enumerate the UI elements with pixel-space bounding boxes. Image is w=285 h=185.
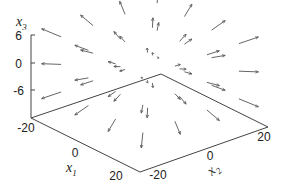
x2-tick-label: 20	[257, 130, 271, 144]
vector-arrow	[184, 4, 192, 17]
x2-tick-label: -20	[149, 168, 167, 182]
vector-arrow	[175, 121, 180, 134]
vector-arrow	[180, 34, 187, 41]
axis-labels: x3 x1 x2	[15, 14, 224, 181]
x1-axis-label: x1	[65, 160, 77, 178]
vector-arrow	[108, 91, 116, 96]
vector-field-plot: 6 0 -6 -20 0 20 -20 0 20 x3 x1 x2	[0, 0, 285, 185]
x1-tick-label: 20	[109, 169, 123, 183]
x1-tick-label: 0	[72, 146, 79, 160]
vector-arrow	[42, 29, 62, 37]
vector-arrow	[212, 21, 226, 31]
vector-arrow	[120, 1, 125, 14]
vector-arrow	[239, 99, 259, 107]
x2-tick-label: 0	[207, 149, 214, 163]
vector-arrow	[239, 71, 259, 72]
tick-labels: 6 0 -6 -20 0 20 -20 0 20	[13, 29, 271, 183]
vector-arrow	[42, 64, 62, 65]
x1-axis	[31, 118, 140, 172]
vector-arrow	[42, 92, 62, 99]
vector-arrow	[108, 119, 116, 132]
vector-arrow	[180, 97, 187, 105]
vector-arrow	[114, 94, 121, 101]
vector-arrow	[184, 39, 192, 44]
vector-arrows	[42, 0, 259, 148]
x2-axis	[140, 127, 268, 172]
vector-arrow	[207, 110, 220, 121]
back-edge-right	[161, 74, 268, 127]
vector-arrow	[81, 15, 94, 26]
x1-tick-label: -20	[17, 121, 35, 135]
vector-arrow	[157, 0, 159, 3]
vector-arrow	[114, 32, 121, 40]
axes-box	[31, 35, 268, 172]
vector-arrow	[75, 106, 89, 116]
vector-arrow	[239, 37, 259, 44]
x3-tick-label: 0	[15, 57, 22, 71]
x3-tick-label: -6	[13, 84, 24, 98]
